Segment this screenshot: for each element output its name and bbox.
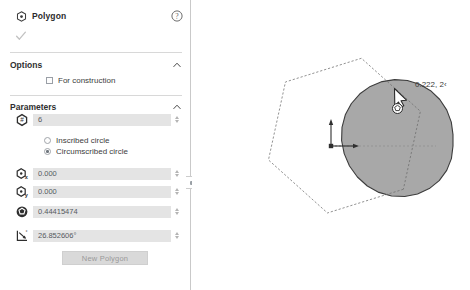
chevron-up-icon[interactable] [172,60,182,70]
new-polygon-button[interactable]: New Polygon [62,251,148,265]
sides-input[interactable]: 6 [33,114,171,126]
checkmark-icon[interactable] [15,30,27,42]
divider [10,95,182,96]
center-x-stepper[interactable] [172,168,181,180]
section-title-options: Options [10,60,42,70]
stepper-down-icon[interactable] [175,192,179,195]
polygon-radius-icon [14,204,29,219]
radio-row-circumscribed[interactable]: Circumscribed circle [44,147,128,156]
angle-input[interactable]: 26.852606° [33,230,171,242]
stepper-up-icon[interactable] [175,208,179,211]
stepper-down-icon[interactable] [175,120,179,123]
radio-label-circumscribed: Circumscribed circle [56,147,128,156]
stepper-down-icon[interactable] [175,212,179,215]
angle-value: 26.852606° [38,231,76,240]
polygon-center-x-icon: x [14,166,29,181]
radio-inscribed-circle[interactable] [44,137,51,144]
angle-stepper[interactable] [172,230,181,242]
stepper-down-icon[interactable] [175,236,179,239]
radio-circumscribed-circle[interactable] [44,148,51,155]
panel-header: Polygon ? [0,6,191,26]
center-y-value: 0.000 [38,187,57,196]
svg-text:?: ? [175,12,179,21]
center-x-value: 0.000 [38,169,57,178]
stepper-up-icon[interactable] [175,170,179,173]
chevron-up-icon[interactable] [172,102,182,112]
radius-stepper[interactable] [172,206,181,218]
for-construction-checkbox[interactable] [46,77,53,84]
stepper-up-icon[interactable] [175,232,179,235]
radius-input[interactable]: 0.44415474 [33,206,171,218]
for-construction-label: For construction [58,76,115,85]
parameter-row-center-y: y 0.000 [14,184,181,199]
polygon-angle-icon: ° [14,228,29,243]
divider [10,52,182,53]
center-x-input[interactable]: 0.000 [33,168,171,180]
sketch-canvas[interactable]: 0.222, 2‹ [192,0,470,290]
sides-value: 6 [38,115,42,124]
polygon-sides-icon: # [14,112,29,127]
stepper-up-icon[interactable] [175,116,179,119]
radio-label-inscribed: Inscribed circle [56,136,109,145]
stepper-up-icon[interactable] [175,188,179,191]
radio-row-inscribed[interactable]: Inscribed circle [44,136,109,145]
polygon-center-icon [16,11,27,22]
svg-text:y: y [24,192,28,198]
svg-text:x: x [24,174,28,180]
polygon-draw-cursor [388,84,422,118]
center-y-stepper[interactable] [172,186,181,198]
polygon-center-y-icon: y [14,184,29,199]
polygon-dialog-panel: Polygon ? Options For construction Param [0,0,191,290]
parameter-row-angle: ° 26.852606° [14,228,181,243]
parameter-row-sides: # 6 [14,112,181,127]
section-header-options[interactable]: Options [10,58,182,72]
section-title-parameters: Parameters [10,102,56,112]
parameter-row-radius: 0.44415474 [14,204,181,219]
parameter-row-center-x: x 0.000 [14,166,181,181]
sides-stepper[interactable] [172,114,181,126]
svg-text:°: ° [25,229,27,235]
for-construction-checkbox-row[interactable]: For construction [46,76,115,85]
svg-text:#: # [20,116,24,123]
radius-value: 0.44415474 [38,207,78,216]
stepper-down-icon[interactable] [175,174,179,177]
sketch-geometry [192,0,470,290]
center-y-input[interactable]: 0.000 [33,186,171,198]
accept-row [0,27,191,45]
page-title: Polygon [32,11,66,21]
help-circle-icon[interactable]: ? [171,10,183,22]
